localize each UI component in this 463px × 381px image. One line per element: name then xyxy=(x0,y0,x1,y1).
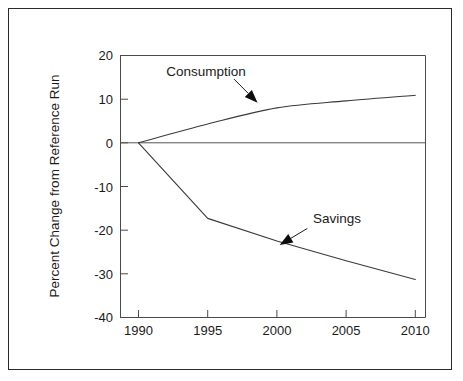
y-axis-title: Percent Change from Reference Run xyxy=(47,75,62,298)
plot-axes-box xyxy=(121,56,426,318)
savings-arrow-head xyxy=(280,234,294,245)
figure-container: Percent Change from Reference Run 20 10 … xyxy=(0,0,463,381)
savings-arrow-line xyxy=(291,228,308,238)
y-tick-label-neg40: -40 xyxy=(94,310,113,325)
series-label-consumption: Consumption xyxy=(166,64,246,79)
y-tick-label-20: 20 xyxy=(99,48,113,63)
series-line-savings xyxy=(139,143,416,280)
y-tick-label-neg30: -30 xyxy=(94,267,113,282)
series-label-savings: Savings xyxy=(313,211,361,226)
x-tick-label-1995: 1995 xyxy=(193,323,222,338)
series-line-consumption xyxy=(139,95,416,143)
x-tick-label-1990: 1990 xyxy=(124,323,153,338)
consumption-arrow-line xyxy=(234,79,248,93)
line-chart: Percent Change from Reference Run 20 10 … xyxy=(0,0,463,381)
x-tick-label-2005: 2005 xyxy=(332,323,361,338)
y-tick-label-neg20: -20 xyxy=(94,223,113,238)
x-tick-label-2010: 2010 xyxy=(401,323,430,338)
x-tick-label-2000: 2000 xyxy=(262,323,291,338)
y-tick-label-neg10: -10 xyxy=(94,180,113,195)
y-tick-label-10: 10 xyxy=(99,92,113,107)
y-tick-label-0: 0 xyxy=(106,136,113,151)
